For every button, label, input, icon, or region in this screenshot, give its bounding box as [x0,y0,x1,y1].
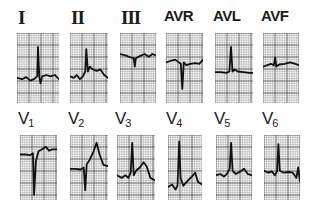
ecg-grid-panel [263,33,299,103]
ecg-trace-svg [20,135,57,200]
ecg-trace-svg [117,135,155,200]
lead-label: I [18,8,24,27]
lead-label-subscript: 3 [125,117,131,129]
lead-label-text: AVF [261,7,288,24]
lead-label: II [71,8,84,27]
ecg-trace-svg [216,135,252,200]
lead-label-text: II [71,7,84,28]
ecg-grid-panel [166,33,203,103]
lead-label: AVL [213,8,240,23]
ecg-grid-panel [17,33,59,103]
lead-label-subscript: 2 [78,117,84,129]
ecg-waveform [120,54,156,67]
ecg-grid-panel [215,33,253,103]
lead-label: III [121,8,140,27]
ecg-grid-panel [120,33,156,103]
lead-label: AVR [164,8,193,23]
ecg-grid-panel [168,135,202,200]
lead-label-subscript: 1 [28,117,34,129]
lead-label: V1 [18,110,34,129]
lead-label-text: I [18,7,24,28]
ecg-trace-svg [70,135,108,200]
ecg-grid-panel [70,135,108,200]
ecg-trace-svg [264,135,300,200]
ecg-grid-panel [117,135,155,200]
ecg-grid-panel [70,33,108,103]
ecg-trace-svg [168,135,202,200]
lead-label: V6 [262,110,278,129]
lead-label-subscript: 6 [272,117,278,129]
ecg-grid-panel [20,135,57,200]
lead-label: V3 [115,110,131,129]
ecg-waveform [264,144,300,182]
lead-label: AVF [261,8,288,23]
lead-label: V5 [214,110,230,129]
lead-label-text: AVR [164,7,193,24]
lead-label-subscript: 5 [224,117,230,129]
ecg-waveform [263,58,299,67]
ecg-grid-panel [264,135,300,200]
lead-label-text: III [121,7,140,28]
ecg-trace-svg [166,33,203,103]
ecg-trace-svg [120,33,156,103]
lead-label: V4 [166,110,182,129]
ecg-grid-panel [216,135,252,200]
ecg-waveform [216,143,252,177]
ecg-trace-svg [215,33,253,103]
lead-label-text: AVL [213,7,240,24]
lead-label: V2 [68,110,84,129]
ecg-trace-svg [263,33,299,103]
ecg-trace-svg [70,33,108,103]
ecg-trace-svg [17,33,59,103]
lead-label-subscript: 4 [176,117,182,129]
